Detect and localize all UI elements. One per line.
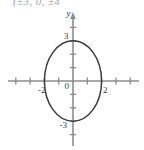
figure-container: (±3, 0, ±4 <box>0 0 144 150</box>
x-tick-label-neg2: -2 <box>38 85 46 95</box>
y-axis-label: y <box>66 8 71 18</box>
origin-label: 0 <box>65 81 70 91</box>
coordinate-plot: y 0 3 -3 -2 2 <box>0 0 144 150</box>
y-tick-label-3: 3 <box>64 31 69 41</box>
y-axis-arrow-icon <box>70 12 76 19</box>
x-tick-label-2: 2 <box>103 85 108 95</box>
y-tick-label-neg3: -3 <box>60 120 68 130</box>
